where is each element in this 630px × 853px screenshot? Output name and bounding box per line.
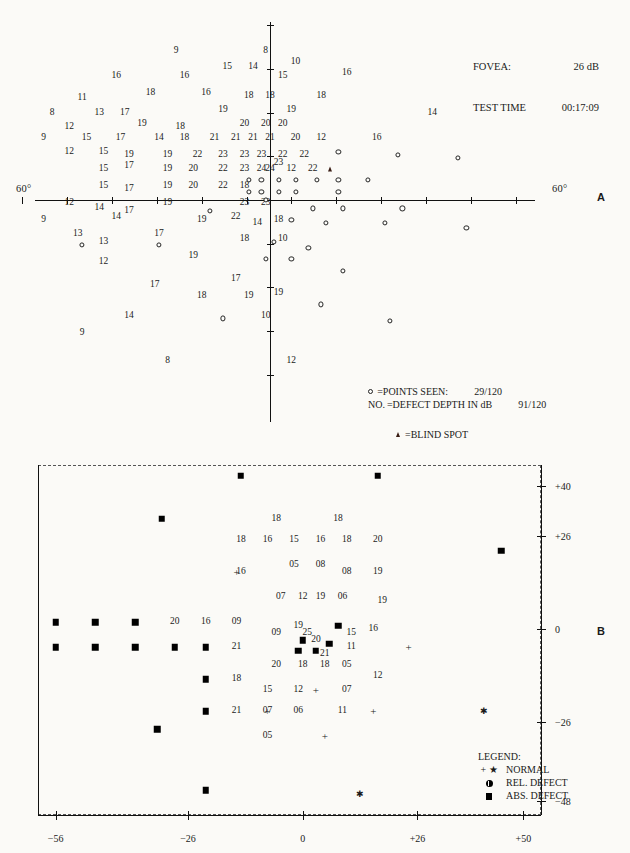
point-seen-marker xyxy=(464,226,469,231)
defect-depth-value: 20 xyxy=(373,535,383,545)
axis-tick xyxy=(22,197,23,204)
defect-depth-value: 08 xyxy=(342,567,352,577)
x-axis-label: +26 xyxy=(410,833,426,844)
point-seen-marker xyxy=(310,206,315,211)
panel-b-left-axis xyxy=(38,465,39,815)
y-axis-tick xyxy=(537,536,546,537)
defect-depth-value: 16 xyxy=(236,567,246,577)
field-value: 9 xyxy=(80,328,85,338)
axis-label-right-60deg: 60° xyxy=(552,183,567,194)
point-seen-marker xyxy=(272,240,277,245)
axis-tick xyxy=(157,197,158,204)
defect-depth-value: 06 xyxy=(294,707,304,717)
field-value: 22 xyxy=(299,150,309,160)
defect-depth-value: 07 xyxy=(276,592,286,602)
point-seen-marker xyxy=(293,178,298,183)
field-value: 17 xyxy=(116,133,126,143)
axis-tick xyxy=(267,25,274,26)
field-value: 13 xyxy=(99,238,109,248)
field-value: 21 xyxy=(231,133,241,143)
field-value: 18 xyxy=(180,133,190,143)
defect-depth-value: 12 xyxy=(373,671,383,681)
normal-plus-marker: + xyxy=(322,731,328,742)
defect-depth-value: 15 xyxy=(289,535,299,545)
field-value: 23 xyxy=(218,150,228,160)
abs-defect-marker xyxy=(132,644,139,651)
defect-depth-value: 16 xyxy=(316,535,326,545)
abs-defect-marker xyxy=(202,676,209,683)
field-value: 17 xyxy=(231,274,241,284)
point-seen-marker xyxy=(276,189,281,194)
defect-depth-value: 18 xyxy=(236,535,246,545)
legend-abs-defect-label: ABS. DEFECT xyxy=(506,789,568,802)
point-seen-marker xyxy=(400,206,405,211)
field-value: 22 xyxy=(218,164,228,174)
defect-depth-value: 21 xyxy=(320,650,330,660)
field-value: 8 xyxy=(165,356,170,366)
field-value: 23 xyxy=(274,159,284,169)
axis-tick xyxy=(267,113,274,114)
point-seen-marker xyxy=(387,319,392,324)
y-axis-tick xyxy=(537,722,546,723)
field-value: 17 xyxy=(120,108,130,118)
defect-depth-value: 19 xyxy=(316,592,326,602)
blind-spot-label: =BLIND SPOT xyxy=(405,428,468,441)
y-axis-label: +26 xyxy=(555,531,571,542)
axis-label-left-60deg: 60° xyxy=(16,183,31,194)
fovea-value: 26 dB xyxy=(547,60,599,74)
defect-depth-value: 07 xyxy=(263,707,273,717)
field-value: 23 xyxy=(240,150,250,160)
points-seen-label: =POINTS SEEN: xyxy=(377,385,448,398)
normal-plus-marker: + xyxy=(370,706,376,717)
defect-depth-value: 15 xyxy=(263,685,273,695)
field-value: 19 xyxy=(163,181,173,191)
point-seen-marker xyxy=(336,189,341,194)
field-value: 18 xyxy=(244,91,254,101)
field-value: 17 xyxy=(124,184,134,194)
axis-tick xyxy=(267,331,274,332)
field-value: 19 xyxy=(124,150,134,160)
field-value: 16 xyxy=(180,71,190,81)
test-header: FOVEA: 26 dB TEST TIME 00:17:09 xyxy=(473,33,599,141)
defect-depth-value: 18 xyxy=(272,514,282,524)
legend-title: LEGEND: xyxy=(478,750,568,763)
field-value: 8 xyxy=(50,108,55,118)
field-value: 14 xyxy=(248,63,258,73)
point-seen-marker xyxy=(396,152,401,157)
field-value: 15 xyxy=(278,71,288,81)
point-seen-marker xyxy=(306,245,311,250)
panel-a-legend: =POINTS SEEN: 29/120 NO. =DEFECT DEPTH I… xyxy=(368,385,546,411)
point-seen-marker xyxy=(208,209,213,214)
axis-tick xyxy=(267,375,274,376)
field-value: 19 xyxy=(218,105,228,115)
field-value: 19 xyxy=(244,291,254,301)
abs-defect-marker xyxy=(202,708,209,715)
y-axis-label: +40 xyxy=(555,481,571,492)
points-seen-icon xyxy=(368,389,373,394)
abs-defect-marker xyxy=(92,644,99,651)
abs-defect-marker xyxy=(132,619,139,626)
defect-depth-value: 08 xyxy=(316,560,326,570)
point-seen-marker xyxy=(276,178,281,183)
x-axis-tick xyxy=(417,811,418,820)
point-seen-marker xyxy=(246,178,251,183)
field-value: 14 xyxy=(112,212,122,222)
abs-defect-marker xyxy=(52,619,59,626)
field-value: 18 xyxy=(265,91,275,101)
x-axis-label: +50 xyxy=(516,833,532,844)
field-value: 18 xyxy=(274,215,284,225)
x-axis-label: −56 xyxy=(48,833,64,844)
abs-defect-marker xyxy=(202,787,209,794)
field-value: 14 xyxy=(94,204,104,214)
field-value: 19 xyxy=(137,119,147,129)
point-seen-marker xyxy=(259,178,264,183)
defect-depth-value: 09 xyxy=(272,628,282,638)
field-value: 17 xyxy=(124,207,134,217)
field-value: 18 xyxy=(146,88,156,98)
defect-depth-value: 21 xyxy=(232,642,242,652)
abs-defect-marker xyxy=(299,637,306,644)
axis-tick xyxy=(426,197,427,204)
axis-tick xyxy=(202,197,203,204)
defect-depth-value: 05 xyxy=(342,660,352,670)
field-value: 12 xyxy=(65,198,75,208)
